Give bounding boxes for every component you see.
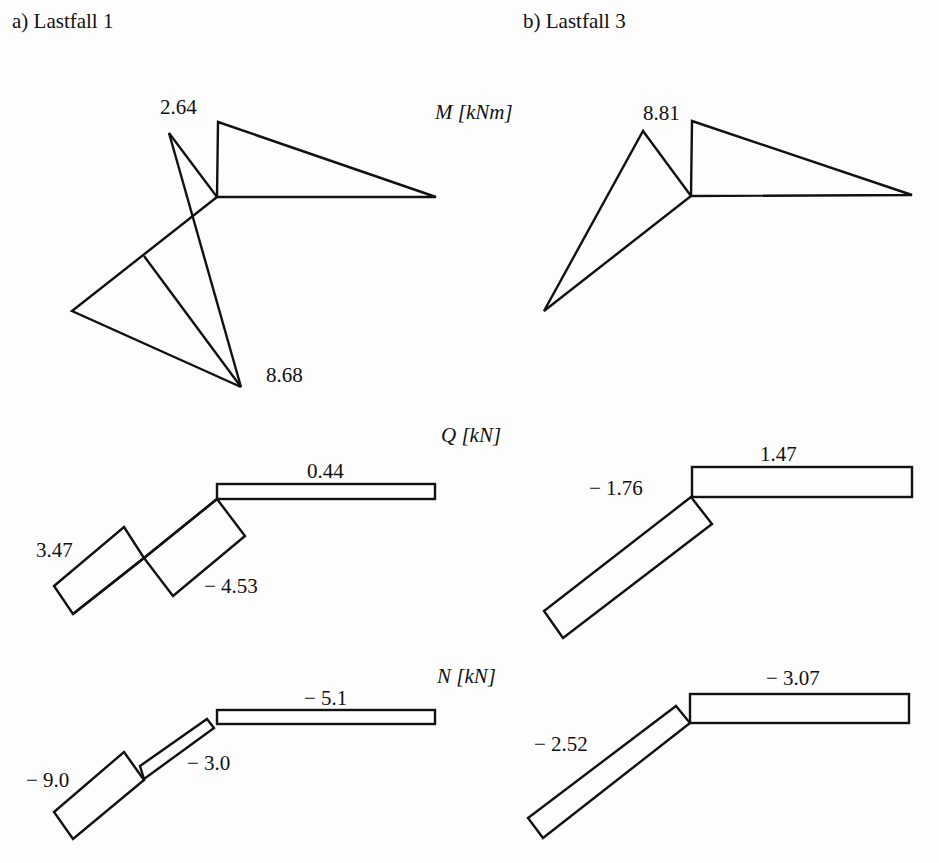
- moment-b-diagonal-triangle: [544, 131, 691, 311]
- value-b-normal-horizontal: − 3.07: [766, 668, 820, 689]
- value-b-normal-diagonal: − 2.52: [534, 734, 588, 755]
- value-a-shear-left: 3.47: [36, 540, 73, 561]
- normal-a-horizontal-rect: [217, 710, 435, 724]
- moment-diagram-b: [544, 121, 912, 311]
- value-a-shear-horizontal: 0.44: [307, 461, 344, 482]
- value-a-normal-left: − 9.0: [26, 770, 69, 791]
- value-a-moment-top: 2.64: [160, 97, 197, 118]
- value-b-moment-top: 8.81: [643, 103, 680, 124]
- value-b-shear-horizontal: 1.47: [760, 444, 797, 465]
- value-b-shear-diagonal: − 1.76: [589, 478, 643, 499]
- moment-b-horizontal-triangle: [691, 121, 912, 196]
- value-a-normal-horizontal: − 5.1: [304, 688, 347, 709]
- shear-b-horizontal-rect: [692, 467, 912, 497]
- normal-diagram-b: [528, 694, 909, 838]
- moment-a-horizontal-triangle: [217, 122, 436, 197]
- shear-a-axis: [73, 499, 217, 614]
- moment-a-lower-triangle: [72, 197, 241, 387]
- value-a-moment-bottom: 8.68: [266, 365, 303, 386]
- moment-a-inner-line: [144, 256, 241, 387]
- moment-diagram-a: [72, 122, 436, 387]
- diagram-canvas: [0, 0, 939, 863]
- value-a-normal-upper: − 3.0: [187, 753, 230, 774]
- normal-b-horizontal-rect: [690, 694, 909, 723]
- shear-b-diagonal-rect: [544, 497, 712, 638]
- normal-diagram-a: [54, 710, 435, 839]
- value-a-shear-right: − 4.53: [204, 576, 258, 597]
- moment-a-long-edge: [169, 133, 241, 387]
- normal-a-lower-rect: [54, 752, 144, 839]
- moment-a-top-edge: [169, 133, 217, 197]
- normal-b-diagonal-rect: [528, 706, 690, 838]
- shear-a-horizontal-rect: [217, 484, 435, 499]
